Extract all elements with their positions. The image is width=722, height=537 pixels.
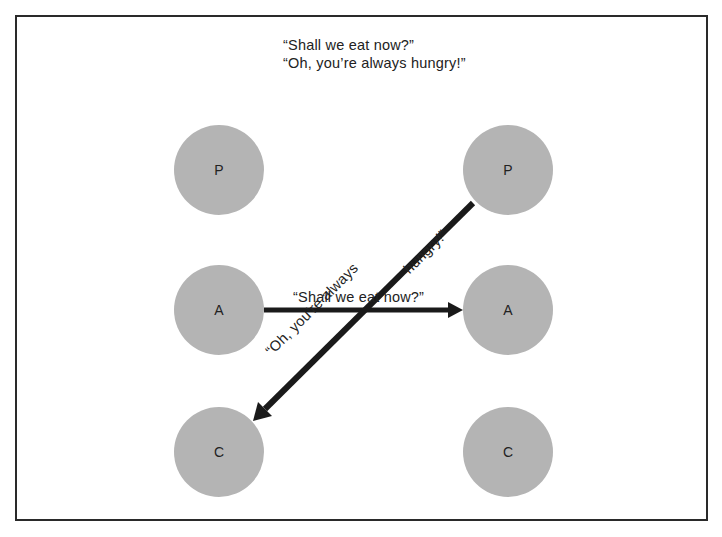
transaction-arrows	[0, 0, 722, 537]
